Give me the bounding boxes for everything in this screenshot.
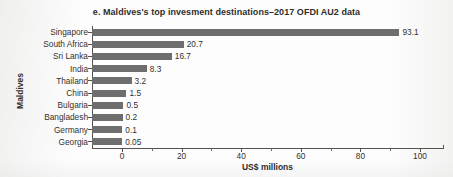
x-axis-tick-label: 0: [107, 151, 137, 161]
bar-value-label: 0.05: [125, 136, 141, 148]
bar-value-label: 8.3: [150, 63, 162, 75]
bar-row: Georgia0.05: [0, 136, 453, 148]
bar: [92, 102, 123, 109]
x-axis-minor-tick: [331, 148, 332, 151]
bar-value-label: 0.2: [126, 111, 138, 123]
x-axis-end-cap: [92, 145, 93, 149]
category-label: Thailand: [24, 75, 88, 87]
x-axis-minor-tick: [211, 148, 212, 151]
x-axis-title: US$ millions: [92, 162, 443, 172]
x-axis-minor-tick: [152, 148, 153, 151]
bar-value-label: 0.5: [126, 99, 138, 111]
bar: [92, 53, 172, 60]
category-label: China: [24, 87, 88, 99]
x-axis-minor-tick: [271, 148, 272, 151]
bar: [92, 126, 122, 133]
bar-row: China1.5: [0, 87, 453, 99]
category-label: Singapore: [24, 26, 88, 38]
bar-row: Germany0.1: [0, 124, 453, 136]
bar: [92, 65, 147, 72]
x-axis-minor-tick: [390, 148, 391, 151]
bar-value-label: 93.1: [402, 26, 418, 38]
category-label: India: [24, 63, 88, 75]
bar-row: Bulgaria0.5: [0, 99, 453, 111]
category-label: Bulgaria: [24, 99, 88, 111]
x-axis-end-cap: [443, 145, 444, 149]
bar: [92, 41, 184, 48]
bar-value-label: 20.7: [187, 38, 203, 50]
bar-row: South Africa20.7: [0, 38, 453, 50]
bar-row: Thailand3.2: [0, 75, 453, 87]
bar: [92, 29, 399, 36]
x-axis-tick-label: 80: [345, 151, 375, 161]
bar-row: Sri Lanka16.7: [0, 50, 453, 62]
x-axis-tick-label: 100: [405, 151, 435, 161]
x-axis-tick-label: 40: [226, 151, 256, 161]
bar-value-label: 0.1: [125, 124, 137, 136]
x-axis-tick-label: 60: [286, 151, 316, 161]
bar-value-label: 16.7: [175, 50, 191, 62]
bar-value-label: 1.5: [129, 87, 141, 99]
chart-figure: e. Maldives's top invesment destinations…: [0, 0, 453, 177]
bar-row: Bangladesh0.2: [0, 111, 453, 123]
chart-title: e. Maldives's top invesment destinations…: [0, 7, 453, 17]
bar-row: India8.3: [0, 63, 453, 75]
bar: [92, 90, 126, 97]
bar-value-label: 3.2: [135, 75, 147, 87]
x-axis-tick-label: 20: [167, 151, 197, 161]
bar: [92, 114, 123, 121]
category-label: Germany: [24, 124, 88, 136]
bar: [92, 77, 132, 84]
category-label: South Africa: [24, 38, 88, 50]
bar: [92, 138, 122, 145]
bar-row: Singapore93.1: [0, 26, 453, 38]
category-label: Georgia: [24, 136, 88, 148]
category-label: Bangladesh: [24, 111, 88, 123]
category-label: Sri Lanka: [24, 50, 88, 62]
